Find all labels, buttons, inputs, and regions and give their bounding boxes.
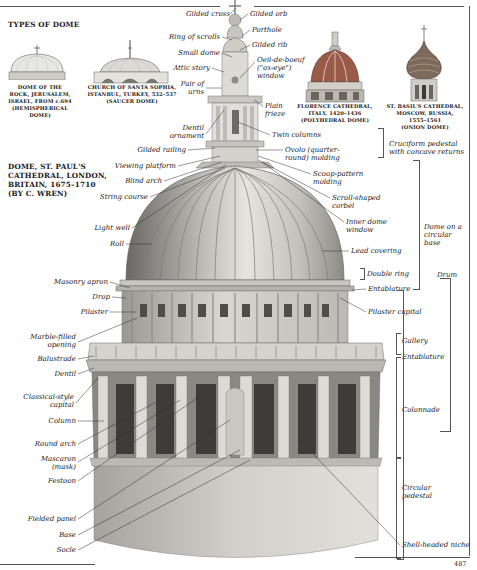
leader-lines <box>0 0 477 570</box>
page-number: 487 <box>454 560 466 568</box>
